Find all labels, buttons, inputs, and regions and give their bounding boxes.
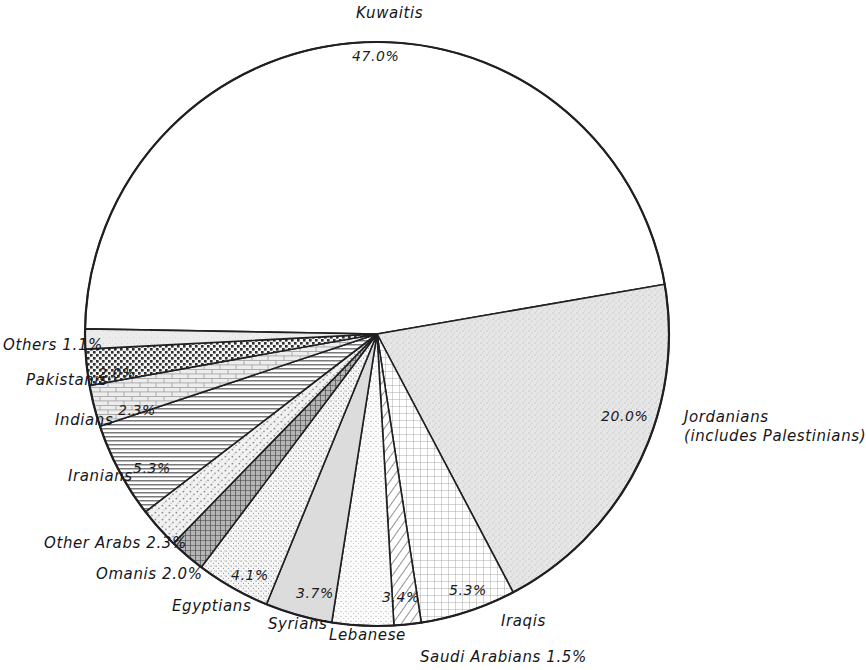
slice-value-jordanians: 20.0% bbox=[601, 408, 648, 426]
slice-label-iraqis: Iraqis bbox=[501, 612, 546, 631]
slice-label-iranians: Iranians bbox=[68, 467, 133, 486]
slice-value-syrians: 3.7% bbox=[296, 585, 334, 603]
slice-label-omanis: Omanis 2.0% bbox=[96, 565, 203, 584]
slice-label-other-arabs: Other Arabs 2.3% bbox=[44, 534, 187, 553]
pie-slice-kuwaitis[interactable] bbox=[85, 42, 665, 334]
slice-label-pakistanis: Pakistanis bbox=[26, 371, 107, 390]
slice-value-kuwaitis: 47.0% bbox=[352, 48, 399, 66]
slice-value-lebanese: 3.4% bbox=[382, 589, 420, 607]
slice-value-indians: 2.3% bbox=[118, 402, 156, 420]
slice-label-saudi-arabians: Saudi Arabians 1.5% bbox=[420, 648, 587, 667]
slice-label-others: Others 1.1% bbox=[3, 336, 103, 355]
slice-value-iraqis: 5.3% bbox=[449, 582, 487, 600]
slice-label-indians: Indians bbox=[55, 411, 113, 430]
slice-label-egyptians: Egyptians bbox=[172, 597, 251, 616]
slice-value-egyptians: 4.1% bbox=[231, 567, 269, 585]
slice-label-lebanese: Lebanese bbox=[329, 626, 406, 645]
slice-label-jordanians-line2: (includes Palestinians) bbox=[684, 427, 866, 446]
slice-label-syrians: Syrians bbox=[268, 615, 327, 634]
slice-label-kuwaitis: Kuwaitis bbox=[356, 4, 423, 23]
slice-label-jordanians: Jordanians (includes Palestinians) bbox=[684, 408, 866, 446]
slice-value-iranians: 5.3% bbox=[133, 460, 171, 478]
slice-label-jordanians-line1: Jordanians bbox=[684, 408, 866, 427]
